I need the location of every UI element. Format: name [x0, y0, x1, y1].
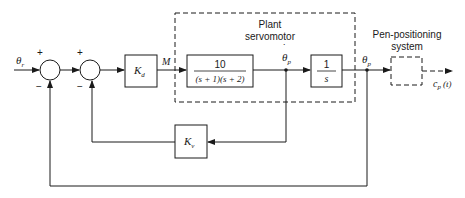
svg-text:cp(t): cp(t) [433, 78, 451, 91]
svg-text:Kd: Kd [133, 64, 145, 79]
svg-text:M: M [161, 56, 171, 67]
input-signal: θr [14, 54, 39, 70]
plant-servomotor-group: Plant servomotor [175, 13, 355, 102]
svg-text:˙: ˙ [283, 43, 286, 54]
svg-text:+: + [77, 47, 83, 58]
svg-text:(s + 1)(s + 2): (s + 1)(s + 2) [195, 74, 244, 84]
transfer-function-block: 10 (s + 1)(s + 2) [187, 55, 253, 87]
svg-text:−: − [36, 81, 42, 92]
velocity-signal: θp ˙ [253, 43, 310, 72]
svg-text:s: s [325, 73, 329, 84]
svg-text:servomotor: servomotor [245, 31, 296, 42]
svg-text:Kv: Kv [183, 135, 195, 150]
block-diagram: θr + − + − Kd M Plant servomotor 10 (s +… [0, 0, 465, 198]
svg-text:−: − [77, 81, 83, 92]
svg-text:+: + [37, 47, 43, 58]
position-signal: θp [342, 53, 390, 72]
output-signal: cp(t) [422, 71, 452, 91]
svg-text:1: 1 [324, 59, 330, 70]
integrator-block: 1 s [311, 55, 342, 87]
summing-junction-1: + − [36, 47, 60, 92]
svg-text:Plant: Plant [259, 19, 282, 30]
svg-text:θp: θp [362, 53, 371, 68]
svg-text:θr: θr [16, 54, 24, 69]
summing-junction-2: + − [77, 47, 100, 92]
svg-text:Pen-positioning: Pen-positioning [373, 29, 442, 40]
m-signal: M [157, 56, 186, 70]
velocity-feedback-loop: Kv [92, 70, 286, 158]
pen-positioning-system: Pen-positioning system [373, 29, 442, 85]
kd-block: Kd [125, 55, 157, 87]
svg-text:10: 10 [214, 59, 226, 70]
svg-text:system: system [391, 41, 423, 52]
